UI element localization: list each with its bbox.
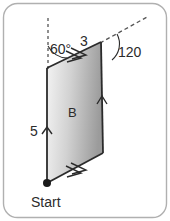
figure-root: 60° 3 120 5 B Start bbox=[0, 0, 170, 221]
vector-label-3: 3 bbox=[80, 33, 88, 49]
start-label: Start bbox=[31, 194, 61, 210]
angle-label-120: 120 bbox=[118, 44, 142, 60]
angle-label-60: 60° bbox=[50, 41, 71, 57]
start-point-dot bbox=[43, 179, 51, 187]
vector-label-5: 5 bbox=[30, 123, 38, 139]
vector-parallelogram-diagram: 60° 3 120 5 B Start bbox=[0, 0, 170, 221]
region-label-b: B bbox=[68, 105, 77, 120]
